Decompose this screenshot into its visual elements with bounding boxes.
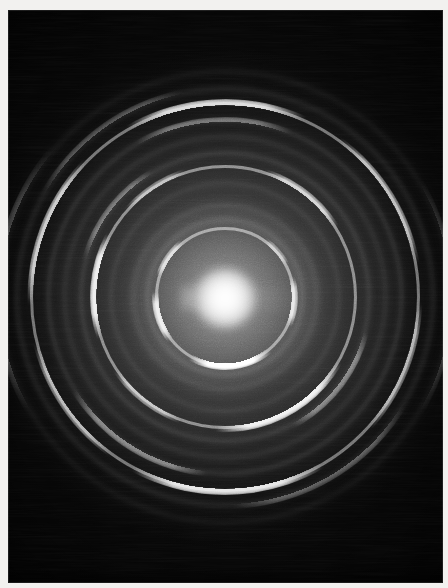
photographic-plate: [8, 10, 443, 583]
plate-bottom-edge-shadow: [8, 567, 443, 583]
diffraction-figure: Electron diffraction pattern Debye-Scher…: [0, 0, 448, 588]
central-beam-core: [194, 268, 256, 328]
